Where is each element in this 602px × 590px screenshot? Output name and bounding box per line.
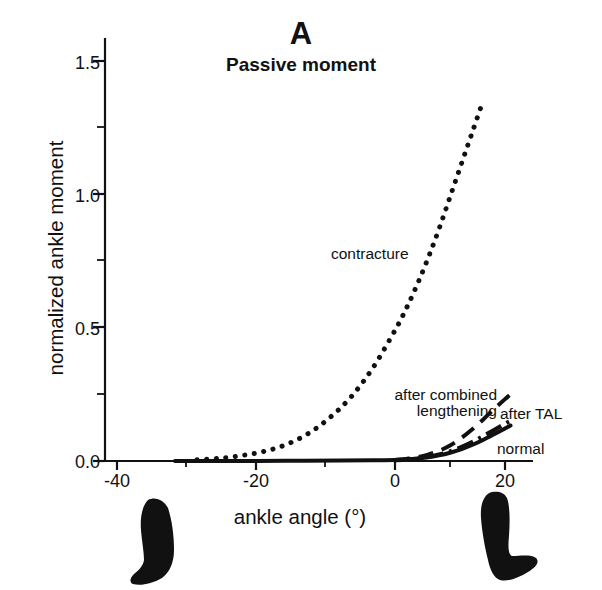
data-series-group xyxy=(175,101,511,461)
dorsiflexed-foot-icon xyxy=(481,492,538,581)
series-curve-after-combined-lengthening xyxy=(395,421,511,460)
series-curve-contracture xyxy=(197,101,483,460)
figure-panel-a: A Passive moment normalized ankle moment… xyxy=(0,0,602,590)
plot-area xyxy=(0,0,602,590)
plantarflexed-foot-icon xyxy=(130,498,174,584)
